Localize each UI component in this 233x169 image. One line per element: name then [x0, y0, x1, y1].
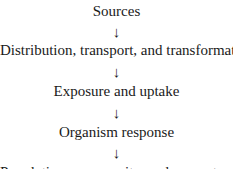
node-organism-response: Organism response [0, 123, 233, 141]
down-arrow-icon: ↓ [0, 24, 233, 40]
node-sources: Sources [0, 2, 233, 20]
down-arrow-icon: ↓ [0, 64, 233, 80]
node-exposure-uptake: Exposure and uptake [0, 82, 233, 100]
down-arrow-icon: ↓ [0, 105, 233, 121]
node-population-community-ecosystem-response: Population, community, and ecosystem res… [0, 163, 233, 169]
down-arrow-icon: ↓ [0, 145, 233, 161]
node-distribution-transport-transformation: Distribution, transport, and transformat… [0, 41, 233, 59]
